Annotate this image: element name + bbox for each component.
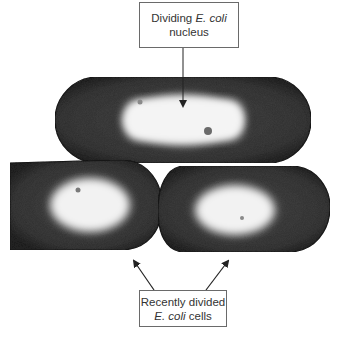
label-species-name: E. coli [154, 310, 185, 322]
label-text: Dividing [151, 12, 195, 24]
label-text: cells [186, 310, 212, 322]
micrograph-figure: Dividing E. coli nucleus Recently divide… [0, 0, 341, 337]
label-species-name: E. coli [195, 12, 226, 24]
micrograph-image [0, 0, 341, 337]
label-bottom-line1: Recently divided [140, 295, 226, 309]
arrow-to-right-cell [206, 261, 228, 290]
label-top-line2: nucleus [140, 25, 238, 39]
bottom-right-cell-nucleoid [195, 185, 275, 235]
arrow-to-left-cell [134, 261, 154, 290]
label-top-line1: Dividing E. coli [140, 11, 238, 25]
label-dividing-nucleus: Dividing E. coli nucleus [139, 2, 239, 48]
cell-gap [150, 163, 165, 172]
label-bottom-line2: E. coli cells [140, 309, 226, 323]
cell-gap-lower [152, 247, 168, 252]
bottom-left-cell-nucleoid [50, 178, 130, 232]
label-recently-divided-cells: Recently divided E. coli cells [139, 290, 227, 327]
